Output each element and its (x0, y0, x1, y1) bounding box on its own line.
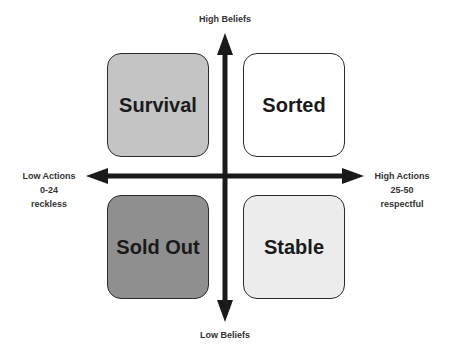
quadrant-sold-out: Sold Out (107, 195, 209, 299)
left-desc: reckless (10, 197, 88, 211)
right-range: 25-50 (362, 183, 442, 197)
left-title: Low Actions (10, 169, 88, 183)
arrow-left-icon (86, 168, 108, 184)
quadrant-label: Sorted (262, 94, 325, 117)
arrow-down-icon (217, 300, 233, 322)
quadrant-sorted: Sorted (243, 53, 345, 157)
axis-label-left: Low Actions 0-24 reckless (10, 169, 88, 211)
axis-label-right: High Actions 25-50 respectful (362, 169, 442, 211)
quadrant-label: Stable (264, 236, 324, 259)
axis-label-top: High Beliefs (175, 12, 275, 26)
axis-label-bottom: Low Beliefs (175, 328, 275, 342)
arrow-up-icon (217, 33, 233, 55)
arrow-right-icon (342, 168, 364, 184)
quadrant-survival: Survival (107, 53, 209, 157)
quadrant-label: Sold Out (116, 236, 199, 259)
left-range: 0-24 (10, 183, 88, 197)
right-title: High Actions (362, 169, 442, 183)
quadrant-stable: Stable (243, 195, 345, 299)
right-desc: respectful (362, 197, 442, 211)
quadrant-label: Survival (119, 94, 197, 117)
